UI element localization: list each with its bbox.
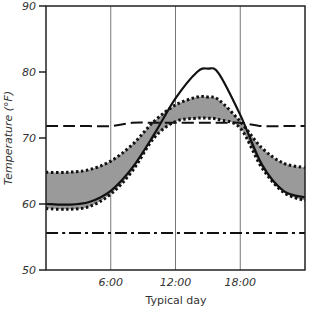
y-tick-label: 70	[22, 132, 36, 145]
temperature-chart: 50607080906:0012:0018:00 Typical day Tem…	[0, 0, 312, 312]
x-axis-label: Typical day	[144, 294, 207, 307]
y-tick-label: 80	[22, 66, 36, 79]
y-tick-label: 50	[22, 264, 36, 277]
x-tick-label: 18:00	[224, 276, 256, 289]
axes	[39, 6, 305, 270]
y-tick-label: 60	[22, 198, 36, 211]
x-tick-label: 6:00	[98, 276, 123, 289]
x-tick-label: 12:00	[160, 276, 192, 289]
y-tick-label: 90	[22, 0, 36, 13]
y-axis-label: Temperature (°F)	[2, 91, 15, 185]
grid-lines	[111, 6, 241, 270]
